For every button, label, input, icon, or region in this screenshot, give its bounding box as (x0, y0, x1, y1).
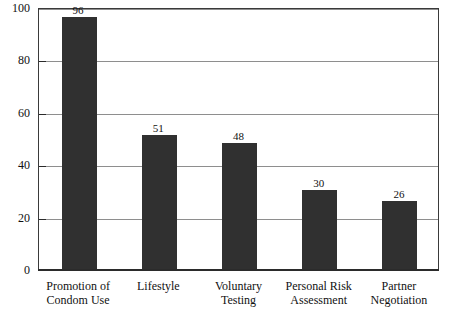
y-tick-label-20: 20 (0, 212, 30, 224)
y-tick-label-0: 0 (0, 264, 30, 276)
category-label-line1: Promotion of (46, 279, 110, 293)
category-label-line1: Partner (382, 279, 417, 293)
tick-60 (39, 114, 46, 115)
bar-chart: 020406080100 9651483026 Promotion ofCond… (0, 0, 450, 316)
category-label-line1: Lifestyle (137, 279, 180, 293)
y-tick-label-60: 60 (0, 107, 30, 119)
tick-20 (39, 219, 46, 220)
bar-value-label: 30 (289, 178, 349, 189)
bar (222, 143, 257, 269)
gridline-60 (39, 114, 438, 115)
bar (302, 190, 337, 269)
gridline-80 (39, 61, 438, 62)
bar-value-label: 26 (369, 189, 429, 200)
tick-80 (39, 61, 46, 62)
tick-40 (39, 166, 46, 167)
bar (142, 135, 177, 269)
bar-value-label: 51 (128, 123, 188, 134)
category-label-line2: Condom Use (23, 293, 133, 307)
x-axis-baseline (38, 269, 439, 271)
y-tick-label-80: 80 (0, 54, 30, 66)
category-label-line2: Negotiation (344, 293, 450, 307)
category-label-line1: Personal Risk (286, 279, 352, 293)
y-tick-label-40: 40 (0, 159, 30, 171)
y-tick-label-100: 100 (0, 2, 30, 14)
bar (62, 17, 97, 269)
bar-value-label: 96 (48, 5, 108, 16)
category-label-line1: Voluntary (215, 279, 262, 293)
bar (382, 201, 417, 269)
bar-value-label: 48 (209, 131, 269, 142)
category-label: PartnerNegotiation (344, 279, 450, 307)
